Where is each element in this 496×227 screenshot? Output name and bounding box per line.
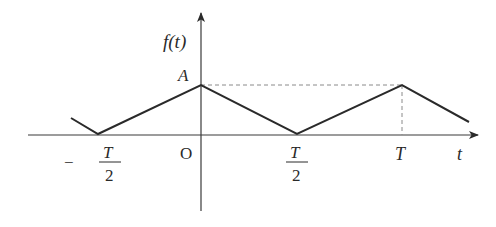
origin-label: O <box>180 144 192 163</box>
neg-half-period-label: − T 2 <box>64 143 121 185</box>
svg-text:−: − <box>64 153 74 172</box>
svg-text:T: T <box>103 143 114 162</box>
y-axis-label: f(t) <box>163 31 186 53</box>
svg-text:T: T <box>290 143 301 162</box>
half-period-label: T 2 <box>286 143 308 185</box>
x-axis-label: t <box>457 144 463 164</box>
triangle-wave-diagram: f(t) A O t T T 2 − T 2 <box>0 0 496 227</box>
amplitude-label: A <box>177 66 189 85</box>
period-label: T <box>395 144 407 164</box>
triangle-waveform <box>71 85 469 134</box>
svg-text:2: 2 <box>292 166 301 185</box>
svg-text:2: 2 <box>105 166 114 185</box>
